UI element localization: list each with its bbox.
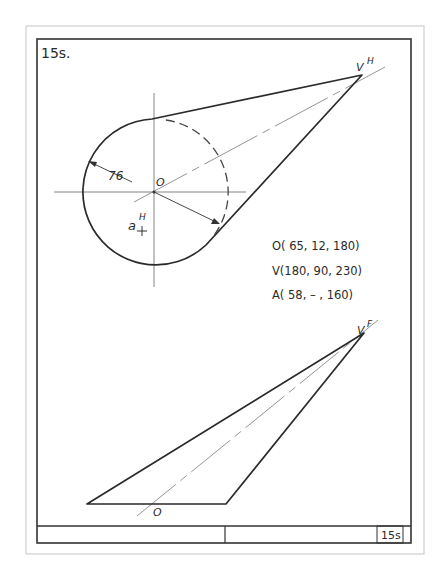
apex-superscript-front: F (367, 319, 373, 329)
dimension-label: 76 (108, 169, 124, 183)
cone-outline-front (87, 333, 364, 504)
page-border (26, 26, 424, 554)
center-label-top: O (156, 176, 165, 189)
coordinate-list: O( 65, 12, 180) V(180, 90, 230) A( 58, –… (272, 239, 362, 302)
axis-line-top (134, 67, 385, 202)
dimension-arrow-left-icon (88, 161, 97, 167)
point-a-superscript: H (139, 212, 146, 222)
coordinate-o: O( 65, 12, 180) (272, 239, 360, 253)
dimension-arrow-right-icon (211, 218, 220, 224)
title-block-label: 15s (381, 529, 401, 542)
drawing-sheet: 15s 15s. 76 O a H V H O( 65, 12, 180) V (0, 0, 445, 571)
hidden-arc (166, 120, 228, 238)
figure-label: 15s. (41, 45, 71, 61)
apex-label-top: V (356, 61, 365, 74)
center-label-front: O (153, 506, 162, 519)
apex-superscript-top: H (367, 56, 374, 66)
coordinate-a: A( 58, – , 160) (272, 288, 353, 302)
cone-outline-top (83, 75, 362, 265)
axis-line-front (137, 320, 378, 516)
point-a-label: a (128, 218, 136, 233)
front-view: O V F (87, 319, 378, 519)
center-point (153, 191, 156, 194)
drawing-frame (37, 39, 411, 543)
coordinate-v: V(180, 90, 230) (272, 264, 362, 278)
dimension-line-2 (154, 192, 218, 223)
